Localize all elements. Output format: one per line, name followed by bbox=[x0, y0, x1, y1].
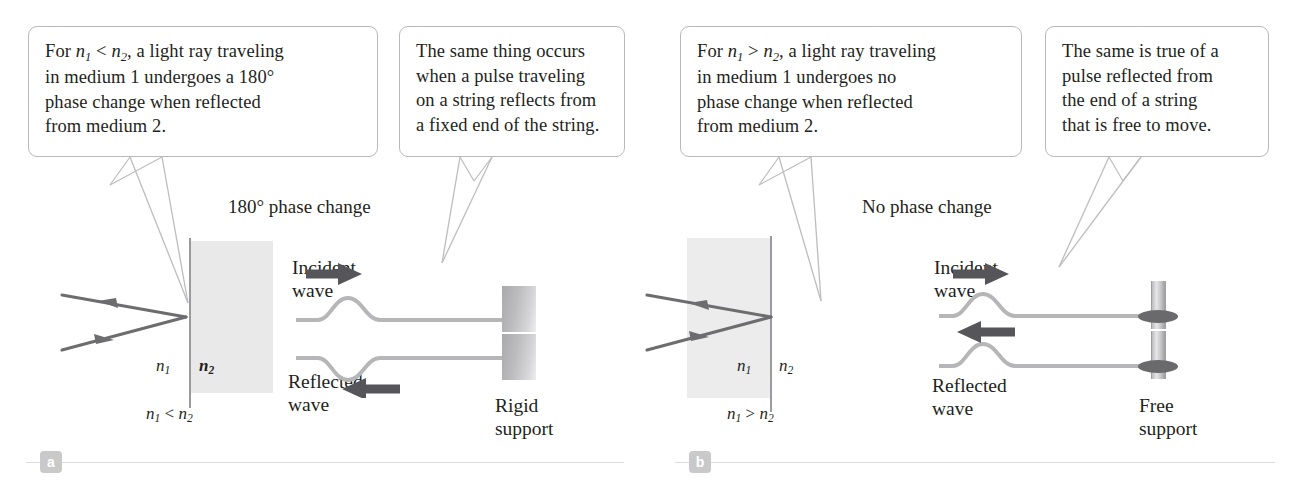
panel-a: For n1 < n2, a light ray traveling in me… bbox=[0, 0, 651, 496]
label-n2-a: n2 bbox=[199, 356, 214, 377]
callout-optics-b-line1: For n1 > n2, a light ray traveling bbox=[697, 39, 1007, 65]
callout-string-a-line2: when a pulse traveling bbox=[416, 64, 610, 89]
heading-phase-change-b: No phase change bbox=[862, 196, 992, 218]
rigid-support-block-bottom-a bbox=[502, 334, 536, 380]
rigid-support-block-top-a bbox=[502, 286, 536, 332]
callout-string-b: The same is true of a pulse reflected fr… bbox=[1045, 26, 1269, 157]
ray-diagram-a bbox=[60, 270, 200, 370]
arrow-incident-a bbox=[306, 263, 362, 285]
callout-optics-b-line4: from medium 2. bbox=[697, 114, 1007, 139]
label-n1-b: n1 bbox=[737, 356, 751, 377]
callout-optics-b: For n1 > n2, a light ray traveling in me… bbox=[680, 26, 1022, 157]
heading-phase-change-a: 180° phase change bbox=[228, 196, 371, 218]
string-waves-a bbox=[296, 258, 526, 398]
label-rigid-support-a: Rigidsupport bbox=[495, 394, 554, 440]
callout-string-a-line3: on a string reflects from bbox=[416, 88, 610, 113]
free-support-ring-top-b bbox=[1138, 310, 1178, 323]
callout-string-a-line1: The same thing occurs bbox=[416, 39, 610, 64]
callout-string-a-line4: a fixed end of the string. bbox=[416, 113, 610, 138]
panel-badge-a: a bbox=[40, 451, 62, 473]
callout-optics-a-line3: phase change when reflected bbox=[45, 90, 363, 115]
physics-figure-reflection-phase-change: For n1 < n2, a light ray traveling in me… bbox=[0, 0, 1303, 496]
label-free-support-b: Freesupport bbox=[1139, 394, 1198, 440]
callout-string-a-leader bbox=[400, 155, 520, 275]
callout-string-a: The same thing occurs when a pulse trave… bbox=[399, 26, 625, 157]
callout-string-b-line1: The same is true of a bbox=[1062, 39, 1254, 64]
callout-optics-a-line4: from medium 2. bbox=[45, 114, 363, 139]
callout-optics-b-line3: phase change when reflected bbox=[697, 90, 1007, 115]
panel-b: For n1 > n2, a light ray traveling in me… bbox=[651, 0, 1303, 496]
panel-rule-b bbox=[675, 462, 1275, 463]
label-n1-a: n1 bbox=[156, 356, 170, 377]
label-relation-b: n1 > n2 bbox=[727, 404, 774, 425]
callout-string-b-line3: the end of a string bbox=[1062, 88, 1254, 113]
label-relation-a: n1 < n2 bbox=[146, 404, 193, 425]
callout-string-b-line2: pulse reflected from bbox=[1062, 64, 1254, 89]
arrow-incident-b bbox=[953, 263, 1009, 285]
arrow-reflected-b bbox=[957, 321, 1015, 343]
free-support-ring-bottom-b bbox=[1138, 360, 1178, 373]
ray-diagram-b bbox=[645, 270, 785, 370]
callout-optics-a-line2: in medium 1 undergoes a 180° bbox=[45, 65, 363, 90]
callout-optics-b-line2: in medium 1 undergoes no bbox=[697, 65, 1007, 90]
panel-rule-a bbox=[26, 462, 624, 463]
callout-optics-a: For n1 < n2, a light ray traveling in me… bbox=[28, 26, 378, 157]
label-n2-b: n2 bbox=[779, 356, 793, 377]
string-waves-b bbox=[939, 258, 1169, 398]
panel-badge-b: b bbox=[689, 451, 711, 473]
callout-string-b-line4: that is free to move. bbox=[1062, 113, 1254, 138]
callout-optics-a-line1: For n1 < n2, a light ray traveling bbox=[45, 39, 363, 65]
